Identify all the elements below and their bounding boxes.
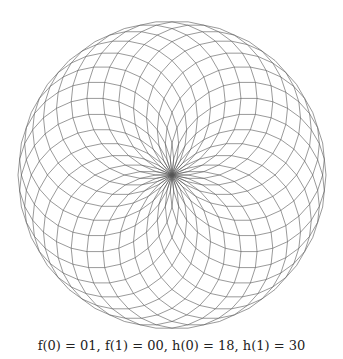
- rosette-figure: [0, 0, 343, 340]
- figure-caption: f(0) = 01, f(1) = 00, h(0) = 18, h(1) = …: [0, 338, 343, 353]
